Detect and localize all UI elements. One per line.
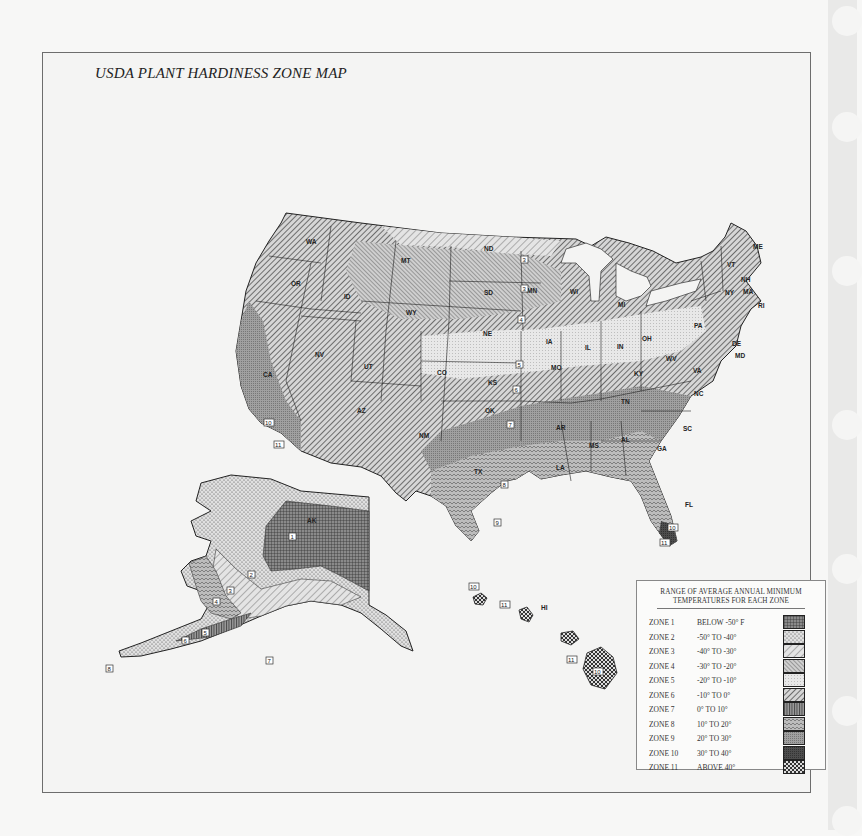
legend-zone: ZONE 3 (649, 647, 675, 656)
legend-swatch-zone-9 (783, 731, 805, 745)
state-label: OH (642, 335, 652, 342)
state-label: OK (485, 407, 495, 414)
state-label: ND (484, 245, 494, 252)
state-label: RI (758, 302, 765, 309)
legend-zone: ZONE 6 (649, 691, 675, 700)
state-label: AR (556, 424, 566, 431)
state-label: DE (732, 340, 742, 347)
svg-text:10: 10 (669, 525, 676, 531)
legend-zone: ZONE 11 (649, 763, 678, 772)
state-label: ID (344, 293, 351, 300)
state-label: AL (621, 436, 630, 443)
state-label: WI (570, 288, 578, 295)
zone-marker: 11 (274, 441, 284, 448)
legend-zone: ZONE 10 (649, 749, 678, 758)
svg-text:10: 10 (470, 584, 477, 590)
legend-range: 0° TO 10° (697, 705, 728, 714)
state-label: MI (618, 301, 625, 308)
alaska-map (119, 475, 413, 657)
zone-legend: RANGE OF AVERAGE ANNUAL MINIMUM TEMPERAT… (636, 580, 826, 770)
legend-zone: ZONE 2 (649, 633, 675, 642)
legend-range: -40° TO -30° (697, 647, 736, 656)
decorative-ornament-icon (832, 806, 862, 836)
state-label: NH (741, 276, 751, 283)
state-label: AZ (357, 407, 366, 414)
zone-marker: 8 (106, 665, 113, 672)
zone-marker: 10 (668, 524, 678, 531)
state-label: VT (727, 261, 735, 268)
svg-text:11: 11 (275, 442, 282, 448)
state-label: NC (694, 390, 704, 397)
page-sidebar (828, 0, 857, 830)
state-label: WA (306, 238, 317, 245)
zone-marker: 10 (593, 668, 603, 675)
zone-marker: 5 (202, 629, 209, 636)
svg-text:11: 11 (501, 602, 508, 608)
state-label: LA (556, 464, 565, 471)
zone-marker: 5 (516, 361, 523, 368)
legend-zone: ZONE 1 (649, 618, 675, 627)
state-label: TX (474, 468, 483, 475)
legend-heading: RANGE OF AVERAGE ANNUAL MINIMUM TEMPERAT… (643, 588, 819, 609)
state-label: KS (488, 379, 498, 386)
legend-range: -50° TO -40° (697, 633, 736, 642)
legend-range: BELOW -50° F (697, 618, 744, 627)
legend-zone: ZONE 8 (649, 720, 675, 729)
svg-text:11: 11 (661, 540, 668, 546)
zone-marker: 6 (513, 386, 520, 393)
state-label: WY (406, 309, 417, 316)
zone-marker: 6 (182, 637, 189, 644)
decorative-ornament-icon (832, 6, 862, 36)
hawaii-island-kauai (473, 593, 487, 605)
zone-marker: 7 (266, 657, 273, 664)
legend-range: -20° TO -10° (697, 676, 736, 685)
zone-marker: 2 (248, 571, 255, 578)
map-frame: USDA PLANT HARDINESS ZONE MAP (42, 52, 811, 793)
state-label: SD (484, 289, 493, 296)
zone-marker: 3 (227, 587, 234, 594)
state-label: NV (315, 351, 325, 358)
state-label: ME (753, 243, 763, 250)
zone-marker: 7 (507, 421, 514, 428)
legend-range: 30° TO 40° (697, 749, 731, 758)
state-label: KY (634, 370, 644, 377)
state-label: GA (657, 445, 667, 452)
legend-zone: ZONE 4 (649, 662, 675, 671)
state-label: IL (585, 344, 591, 351)
state-label: WV (666, 355, 677, 362)
decorative-ornament-icon (832, 696, 862, 726)
legend-swatch-zone-6 (783, 688, 805, 702)
legend-row: ZONE 11ABOVE 40° (637, 759, 825, 775)
state-label: CA (263, 371, 273, 378)
state-label: MD (735, 352, 745, 359)
state-label: MO (551, 364, 561, 371)
zone-marker: 11 (567, 656, 577, 663)
zone-marker: 11 (660, 539, 670, 546)
state-label: NY (725, 289, 735, 296)
legend-swatch-zone-10 (783, 746, 805, 760)
legend-swatch-zone-1 (783, 615, 805, 629)
svg-text:11: 11 (568, 657, 575, 663)
legend-swatch-zone-2 (783, 630, 805, 644)
legend-swatch-zone-5 (783, 673, 805, 687)
legend-range: -10° TO 0° (697, 691, 730, 700)
zone-marker: 10 (264, 419, 274, 426)
state-label: IN (617, 343, 624, 350)
state-label: CO (437, 369, 447, 376)
zone-marker: 4 (518, 316, 525, 323)
zone-marker: 10 (469, 583, 479, 590)
hawaii-island-maui (561, 631, 579, 645)
legend-heading-line1: RANGE OF AVERAGE ANNUAL MINIMUM (643, 588, 819, 597)
state-label: VA (693, 367, 702, 374)
state-label: PA (694, 322, 703, 329)
zone-marker: 9 (494, 519, 501, 526)
state-label: IA (546, 338, 553, 345)
decorative-ornament-icon (832, 112, 862, 142)
hawaii-island-oahu (519, 607, 533, 622)
legend-zone: ZONE 5 (649, 676, 675, 685)
legend-zone: ZONE 9 (649, 734, 675, 743)
legend-heading-line2: TEMPERATURES FOR EACH ZONE (657, 597, 805, 609)
decorative-ornament-icon (832, 410, 862, 440)
state-label: TN (621, 398, 630, 405)
zone-marker: 3 (521, 256, 528, 263)
